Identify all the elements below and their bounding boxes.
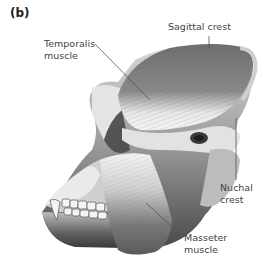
panel-label: (b)	[10, 6, 30, 20]
figure-canvas: (b) Sagittal crest Temporalis muscle Nuc…	[0, 0, 273, 268]
label-sagittal-crest: Sagittal crest	[168, 21, 231, 33]
label-temporalis-muscle: Temporalis muscle	[44, 38, 95, 62]
label-nuchal-crest: Nuchal crest	[220, 182, 253, 206]
label-masseter-muscle: Masseter muscle	[184, 232, 227, 256]
skull-illustration	[0, 0, 273, 268]
